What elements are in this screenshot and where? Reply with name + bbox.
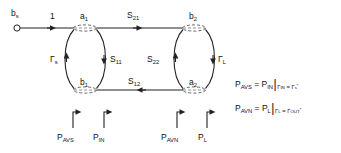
label-node-a1-sub: 1 (85, 16, 88, 22)
equation-pavn: PAVN = PL|ΓL = ΓOUT* (235, 101, 301, 113)
label-gamma-l: ΓL (218, 55, 226, 64)
label-p-in: PIN (93, 133, 104, 142)
eq1-lhs-base: P (235, 79, 241, 89)
label-s21-sub: 21 (133, 15, 139, 21)
label-node-a1: a1 (80, 12, 88, 21)
eq2-rhs-sub: L (268, 108, 271, 114)
label-node-a2: a2 (189, 78, 197, 87)
label-node-b1-sub: 1 (85, 82, 88, 88)
eq2-equals: = (255, 103, 260, 113)
eq2-condition: ΓL = ΓOUT* (275, 108, 302, 114)
node-b2 (183, 25, 206, 31)
eq1-cond-equals: = (286, 84, 289, 90)
label-p-avs: PAVS (57, 133, 74, 142)
eq2-lhs-base: P (235, 103, 241, 113)
label-s21-base: S (127, 10, 133, 20)
label-s22: S22 (147, 55, 159, 64)
node-a1 (74, 25, 97, 31)
label-s21: S21 (127, 11, 139, 20)
eq1-cond-left-sub: IN (280, 85, 284, 90)
label-gamma-s: Γs (50, 55, 58, 64)
label-s22-base: S (147, 54, 153, 64)
label-node-b2-sub: 2 (194, 16, 197, 22)
label-s12-sub: 12 (134, 81, 140, 87)
label-p-avn-base: P (161, 132, 167, 142)
eq2-cond-left-sub: L (278, 109, 280, 114)
label-s12: S12 (128, 77, 140, 86)
pointer-p-avn (177, 112, 183, 128)
label-p-avs-base: P (57, 132, 63, 142)
label-bs-sub: s (16, 13, 19, 19)
label-p-in-sub: IN (99, 137, 105, 143)
eq2-cond-equals: = (282, 108, 285, 114)
label-gamma-s-sub: s (55, 59, 58, 65)
label-unity-branch: 1 (50, 12, 55, 21)
label-bs: bs (11, 9, 19, 18)
pointer-p-in (104, 112, 110, 128)
label-p-avn-sub: AVN (167, 137, 179, 143)
label-node-b1: b1 (80, 78, 88, 87)
label-s11: S11 (110, 55, 122, 64)
label-node-b2: b2 (189, 12, 197, 21)
label-s11-base: S (110, 54, 116, 64)
label-p-l-base: P (198, 132, 204, 142)
source-terminal-circle (14, 25, 20, 31)
eq2-rhs-base: P (262, 103, 268, 113)
eq1-cond-right-sup: * (297, 83, 299, 88)
label-node-a2-sub: 2 (194, 82, 197, 88)
label-s22-sub: 22 (153, 59, 159, 65)
signal-flow-graph-figure: bs 1 a1 S21 b2 Γs S11 S22 ΓL b1 S12 a2 P (0, 0, 341, 153)
eq1-rhs-sub: IN (267, 84, 273, 90)
label-gamma-l-base: Γ (218, 54, 223, 64)
eq2-lhs-sub: AVN (241, 108, 253, 114)
pointer-p-avs (73, 112, 79, 128)
label-p-in-base: P (93, 132, 99, 142)
label-p-l-sub: L (204, 137, 207, 143)
label-p-l: PL (198, 133, 207, 142)
eq1-lhs-sub: AVS (241, 84, 252, 90)
label-p-avs-sub: AVS (63, 137, 74, 143)
label-p-avn: PAVN (161, 133, 178, 142)
eq1-condition: ΓIN = Γs* (277, 84, 298, 90)
eq2-cond-right-sup: * (300, 107, 302, 112)
label-s12-base: S (128, 76, 134, 86)
pointer-p-l (207, 112, 213, 128)
label-s11-sub: 11 (116, 59, 122, 65)
eq1-equals: = (254, 79, 259, 89)
eq2-cond-right-sub: OUT (290, 109, 299, 114)
equation-pavs: PAVS = PIN|ΓIN = Γs* (235, 77, 299, 89)
label-gamma-s-base: Γ (50, 54, 55, 64)
label-gamma-l-sub: L (223, 59, 226, 65)
